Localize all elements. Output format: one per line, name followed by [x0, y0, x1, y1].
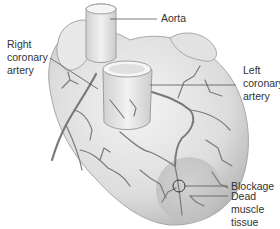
label-dead-muscle-tissue: Dead muscle tissue — [231, 190, 264, 229]
label-aorta: Aorta — [161, 12, 186, 25]
aorta-vessel — [86, 4, 116, 63]
label-right-coronary-artery: Right coronary artery — [7, 38, 48, 77]
heart-diagram: Aorta Right coronary artery Left coronar… — [0, 0, 280, 229]
dead-muscle-tissue-region — [156, 157, 222, 223]
pulmonary-trunk — [103, 61, 152, 130]
label-left-coronary-artery: Left coronary artery — [243, 64, 280, 103]
